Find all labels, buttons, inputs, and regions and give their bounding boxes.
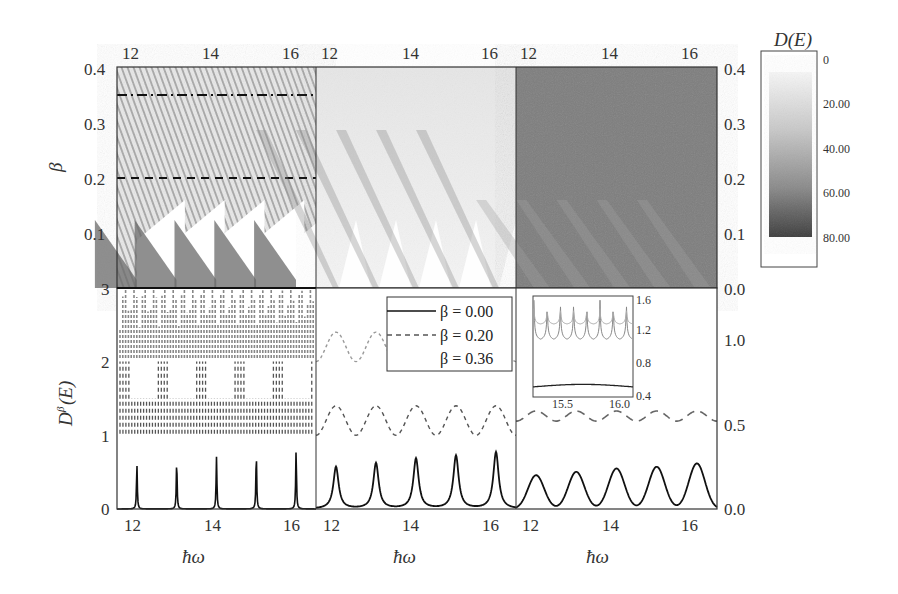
colorbar-title: D(E): [773, 29, 812, 51]
bottom-xticks: 12 14 16 12 14 16 12 14 16: [124, 516, 698, 535]
svg-text:16: 16: [681, 516, 698, 535]
svg-text:0: 0: [101, 500, 110, 519]
bottom-right-yticks: 1.0 0.5 0.0: [724, 331, 745, 519]
xlabel-right: ħω: [586, 546, 609, 567]
svg-text:0.2: 0.2: [724, 170, 745, 189]
svg-text:12: 12: [124, 516, 141, 535]
svg-text:D: D: [55, 412, 76, 427]
svg-text:0.1: 0.1: [724, 225, 745, 244]
heatmap-top-left: [95, 67, 344, 288]
inset-plot: 1.6 1.2 0.8 0.4 15.5 16.0: [533, 293, 651, 411]
inset-ytick: 1.6: [636, 293, 651, 307]
legend-item-0: β = 0.00: [440, 303, 493, 321]
svg-text:3: 3: [101, 280, 110, 299]
svg-text:14: 14: [204, 516, 222, 535]
top-xticks: 12 14 16 12 14 16 12 14 16: [122, 44, 698, 63]
svg-text:14: 14: [402, 44, 420, 63]
svg-text:12: 12: [323, 516, 340, 535]
svg-text:0.4: 0.4: [724, 60, 746, 79]
svg-text:40.00: 40.00: [823, 142, 850, 156]
svg-text:12: 12: [122, 44, 139, 63]
svg-text:12: 12: [520, 44, 537, 63]
svg-text:0.0: 0.0: [724, 280, 745, 299]
svg-text:0.2: 0.2: [84, 170, 105, 189]
svg-text:1.0: 1.0: [724, 331, 745, 350]
svg-text:14: 14: [202, 44, 220, 63]
svg-text:14: 14: [602, 516, 620, 535]
svg-text:0.0: 0.0: [724, 500, 745, 519]
svg-text:80.00: 80.00: [823, 231, 850, 245]
svg-text:0: 0: [823, 53, 829, 67]
colorbar: D(E) 0 20.00 40.00 60.00 80.00: [761, 29, 850, 267]
bottom-left-yticks: 2 1 0: [101, 353, 110, 519]
svg-text:0.1: 0.1: [84, 225, 105, 244]
svg-text:16: 16: [481, 44, 498, 63]
figure: β = 0.00 β = 0.20 β = 0.36 1.6 1.2 0.8 0…: [0, 0, 898, 594]
svg-text:16: 16: [283, 516, 300, 535]
svg-text:12: 12: [321, 44, 338, 63]
inset-xtick: 16.0: [609, 397, 630, 411]
legend-item-2: β = 0.36: [440, 350, 493, 368]
svg-text:β: β: [54, 406, 66, 413]
legend: β = 0.00 β = 0.20 β = 0.36: [387, 297, 512, 371]
svg-text:16: 16: [681, 44, 698, 63]
inset-xtick: 15.5: [552, 397, 573, 411]
top-right-yticks: 0.4 0.3 0.2 0.1 0.0: [724, 60, 746, 299]
svg-text:16: 16: [482, 516, 499, 535]
svg-text:0.5: 0.5: [724, 416, 745, 435]
xlabel-middle: ħω: [393, 546, 416, 567]
svg-text:20.00: 20.00: [823, 97, 850, 111]
ylabel-dbeta: D β (E): [54, 381, 77, 427]
inset-ytick: 1.2: [636, 323, 651, 337]
svg-text:14: 14: [402, 516, 420, 535]
svg-text:60.00: 60.00: [823, 186, 850, 200]
svg-text:0.3: 0.3: [724, 115, 745, 134]
svg-text:0.4: 0.4: [84, 60, 106, 79]
svg-text:12: 12: [522, 516, 539, 535]
svg-text:16: 16: [282, 44, 299, 63]
ylabel-beta: β: [45, 162, 66, 173]
svg-text:2: 2: [101, 353, 110, 372]
svg-text:14: 14: [601, 44, 619, 63]
xlabel-left: ħω: [182, 546, 205, 567]
legend-item-1: β = 0.20: [440, 327, 493, 345]
inset-ytick: 0.8: [636, 356, 651, 370]
svg-text:0.3: 0.3: [84, 115, 105, 134]
svg-text:1: 1: [101, 427, 110, 446]
svg-text:(E): (E): [55, 381, 77, 405]
inset-ytick: 0.4: [636, 389, 651, 403]
